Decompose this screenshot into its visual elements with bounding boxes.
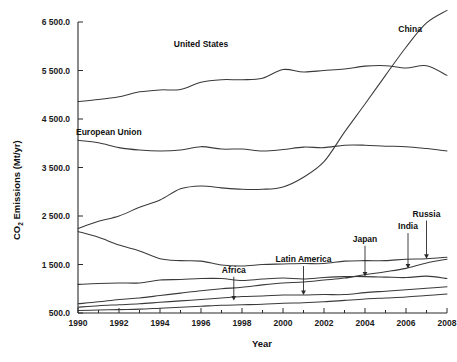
x-tick-label: 1990 <box>69 318 88 328</box>
co2-emissions-line-chart: 500.01 500.02 500.03 500.04 500.05 500.0… <box>0 0 457 362</box>
y-axis-title-prefix: CO <box>11 226 22 240</box>
x-tick-label: 2000 <box>274 318 293 328</box>
series-label-india: India <box>398 221 418 231</box>
x-axis-title: Year <box>252 338 272 349</box>
series-label-japan: Japan <box>353 234 378 244</box>
series-label-european-union: European Union <box>76 127 142 137</box>
y-tick-label: 4 500.0 <box>42 114 71 124</box>
y-tick-label: 1 500.0 <box>42 260 71 270</box>
x-tick-label: 1992 <box>110 318 129 328</box>
series-label-russia: Russia <box>413 209 441 219</box>
y-tick-label: 500.0 <box>49 308 71 318</box>
x-tick-label: 2008 <box>438 318 457 328</box>
series-label-china: China <box>398 24 422 34</box>
y-tick-label: 5 500.0 <box>42 66 71 76</box>
x-tick-label: 2006 <box>397 318 416 328</box>
x-tick-label: 2004 <box>356 318 375 328</box>
x-tick-label: 1996 <box>192 318 211 328</box>
series-label-africa: Africa <box>222 265 246 275</box>
x-tick-label: 2002 <box>315 318 334 328</box>
series-label-latin-america: Latin America <box>276 254 332 264</box>
y-tick-label: 2 500.0 <box>42 211 71 221</box>
series-label-united-states: United States <box>174 39 229 49</box>
chart-canvas: 500.01 500.02 500.03 500.04 500.05 500.0… <box>0 0 457 362</box>
y-tick-label: 6 500.0 <box>42 17 71 27</box>
y-tick-label: 3 500.0 <box>42 163 71 173</box>
x-tick-label: 1994 <box>151 318 170 328</box>
y-axis-title-suffix: Emissions (Mt/yr) <box>11 140 22 222</box>
x-tick-label: 1998 <box>233 318 252 328</box>
